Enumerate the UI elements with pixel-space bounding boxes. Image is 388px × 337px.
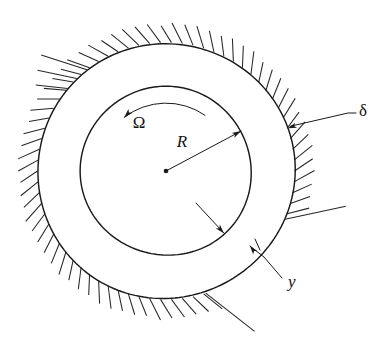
hatch-tick — [78, 267, 81, 289]
hatch-long-stroke — [41, 55, 87, 70]
hatch-tick — [150, 298, 161, 319]
hatch-tick — [278, 88, 288, 108]
hatch-tick — [287, 208, 309, 214]
bearing-hatching — [18, 23, 346, 331]
hatch-tick — [59, 252, 66, 275]
hatch-tick — [18, 160, 38, 171]
hatch-tick — [69, 260, 73, 280]
hatch-tick — [294, 170, 315, 181]
y-tick-mark — [255, 239, 260, 250]
hatch-tick — [101, 40, 118, 51]
hatch-tick — [259, 62, 263, 82]
journal-bearing-diagram: Ω R δ y — [0, 0, 388, 337]
hatch-tick — [197, 26, 204, 48]
hatch-tick — [232, 39, 233, 62]
hatch-tick — [18, 149, 39, 159]
hatch-tick — [172, 23, 182, 43]
y-arrowhead — [250, 246, 257, 254]
hatch-tick — [135, 27, 150, 44]
hatch-tick — [290, 196, 310, 203]
hatch-tick — [21, 182, 38, 196]
hatch-tick — [185, 25, 193, 46]
center-point — [164, 169, 169, 174]
label-omega: Ω — [133, 113, 146, 132]
hatch-tick — [283, 98, 295, 118]
hatch-tick — [51, 243, 59, 263]
hatch-tick — [26, 203, 42, 221]
hatch-tick — [193, 297, 209, 312]
y-leader-line — [264, 257, 282, 278]
hatch-gap-edge — [285, 206, 346, 219]
hatch-tick — [209, 31, 214, 52]
hatch-tick — [171, 299, 184, 317]
label-y: y — [286, 272, 296, 291]
figure-labels: Ω R δ y — [133, 101, 367, 291]
label-radius: R — [176, 132, 188, 151]
hatch-tick — [147, 25, 160, 43]
hatch-tick — [204, 294, 223, 309]
delta-leader — [290, 113, 356, 126]
hatch-tick — [293, 184, 312, 193]
hatch-tick — [21, 139, 41, 146]
hatch-tick — [30, 108, 53, 110]
hatch-tick — [128, 294, 134, 315]
hatch-tick — [242, 46, 243, 68]
hatch-tick — [139, 297, 147, 316]
hatch-tick — [21, 171, 38, 182]
hatch-tick — [24, 128, 45, 134]
hatch-tick — [52, 78, 73, 82]
rotation-arrowhead — [124, 109, 132, 117]
label-delta: δ — [359, 101, 367, 120]
hatch-tick — [88, 45, 108, 56]
hatch-tick — [182, 298, 196, 314]
hatch-tick — [272, 78, 280, 99]
hatch-tick — [99, 280, 100, 303]
hatch-tick — [38, 224, 49, 242]
hatch-gap-edge — [206, 293, 255, 331]
hatch-tick — [79, 53, 99, 62]
hatch-tick — [118, 290, 122, 311]
hatch-tick — [294, 145, 312, 160]
hatch-tick — [32, 214, 45, 231]
hatch-tick — [266, 70, 272, 91]
hatch-tick — [29, 118, 49, 121]
hatch-tick — [221, 36, 224, 56]
hatch-tick — [44, 88, 66, 90]
hatch-tick — [293, 134, 309, 149]
hatch-tick — [122, 29, 139, 45]
hatch-tick — [295, 159, 313, 171]
hatch-tick — [44, 234, 54, 253]
hatch-long-stroke — [36, 85, 68, 88]
hatch-tick — [61, 69, 81, 74]
hatch-tick — [161, 26, 171, 43]
hatch-tick — [108, 286, 111, 309]
figure-root: Ω R δ y — [0, 0, 388, 337]
hatch-tick — [161, 299, 172, 318]
hatch-tick — [111, 34, 128, 48]
hatch-tick — [89, 274, 90, 295]
hatch-tick — [24, 193, 39, 208]
hatch-tick — [251, 51, 254, 74]
radius-arrowhead — [232, 131, 241, 138]
